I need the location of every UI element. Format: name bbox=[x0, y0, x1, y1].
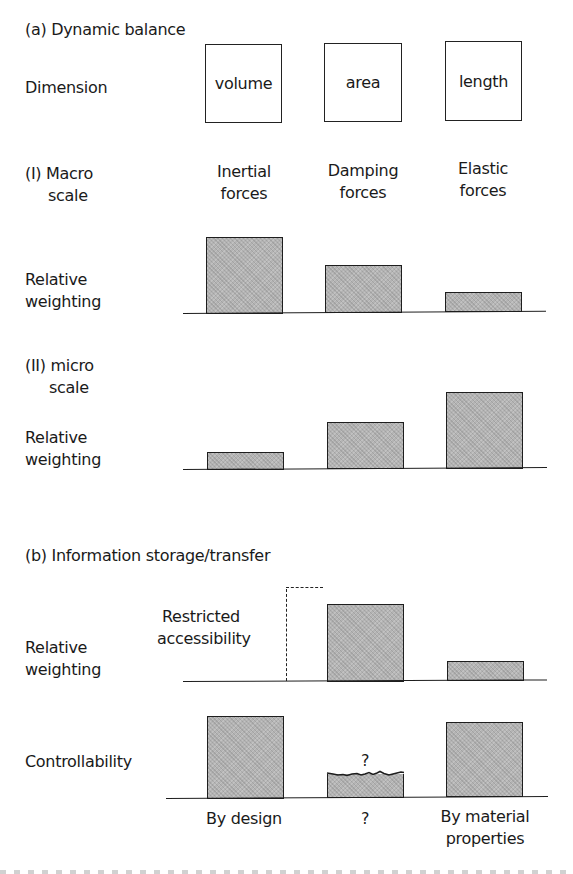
micro-bar-inertial bbox=[207, 452, 284, 470]
wavy-top-icon bbox=[327, 770, 404, 778]
micro-scale-label-2: scale bbox=[49, 378, 89, 397]
control-bar-material bbox=[446, 722, 523, 797]
macro-bar-damping bbox=[325, 265, 402, 313]
dimension-label: Dimension bbox=[25, 78, 107, 97]
restricted-dashed-bar-top bbox=[286, 587, 323, 588]
control-bar-design bbox=[207, 716, 284, 799]
force-elastic-2: forces bbox=[443, 181, 523, 200]
force-damping-1: Damping bbox=[318, 161, 408, 180]
macro-scale-label-1: (I) Macro bbox=[25, 164, 93, 183]
controllability-label: Controllability bbox=[25, 752, 132, 771]
force-elastic-1: Elastic bbox=[443, 159, 523, 178]
restricted-dashed-bar-side bbox=[286, 589, 287, 681]
micro-bar-damping bbox=[327, 422, 404, 469]
b-weight-label-2: weighting bbox=[25, 660, 101, 679]
section-b-title: (b) Information storage/transfer bbox=[25, 546, 270, 565]
b-weight-bar-material bbox=[447, 661, 524, 681]
macro-scale-label-2: scale bbox=[48, 186, 88, 205]
macro-bar-elastic bbox=[445, 292, 522, 312]
macro-weight-label-2: weighting bbox=[25, 292, 101, 311]
cropped-caption-edge bbox=[0, 870, 573, 874]
category-by-material-1: By material bbox=[430, 807, 540, 826]
category-unknown: ? bbox=[355, 809, 375, 828]
restricted-label-2: accessibility bbox=[157, 629, 251, 648]
section-a-title: (a) Dynamic balance bbox=[25, 20, 185, 39]
force-inertial-2: forces bbox=[204, 184, 284, 203]
dimension-area-text: area bbox=[346, 73, 380, 92]
dimension-box-area: area bbox=[324, 43, 402, 122]
macro-bar-inertial bbox=[206, 237, 283, 314]
micro-weight-label-2: weighting bbox=[25, 450, 101, 469]
force-damping-2: forces bbox=[318, 183, 408, 202]
micro-bar-elastic bbox=[446, 392, 523, 469]
dimension-box-length: length bbox=[445, 41, 522, 121]
uncertain-mark: ? bbox=[355, 751, 375, 770]
b-weight-bar-unknown bbox=[327, 604, 404, 682]
micro-scale-label-1: (II) micro bbox=[25, 356, 94, 375]
dimension-box-volume: volume bbox=[205, 44, 282, 123]
category-by-design: By design bbox=[194, 809, 294, 828]
dimension-length-text: length bbox=[459, 72, 508, 91]
restricted-label-1: Restricted bbox=[162, 607, 240, 626]
macro-weight-label-1: Relative bbox=[25, 270, 87, 289]
dimension-volume-text: volume bbox=[215, 74, 272, 93]
b-weight-label-1: Relative bbox=[25, 638, 87, 657]
category-by-material-2: properties bbox=[430, 829, 540, 848]
force-inertial-1: Inertial bbox=[204, 162, 284, 181]
micro-weight-label-1: Relative bbox=[25, 428, 87, 447]
